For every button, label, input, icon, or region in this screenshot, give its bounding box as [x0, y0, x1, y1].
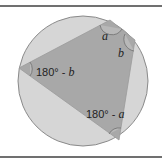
- angle-label-180-minus-a: 180° - a: [86, 107, 125, 121]
- cyclic-quadrilateral-diagram: a b 180° - b 180° - a: [0, 0, 162, 165]
- angle-label-b: b: [118, 46, 124, 60]
- angle-label-180-minus-b: 180° - b: [36, 65, 75, 79]
- bottom-rule: [0, 156, 162, 158]
- angle-label-a: a: [102, 29, 108, 43]
